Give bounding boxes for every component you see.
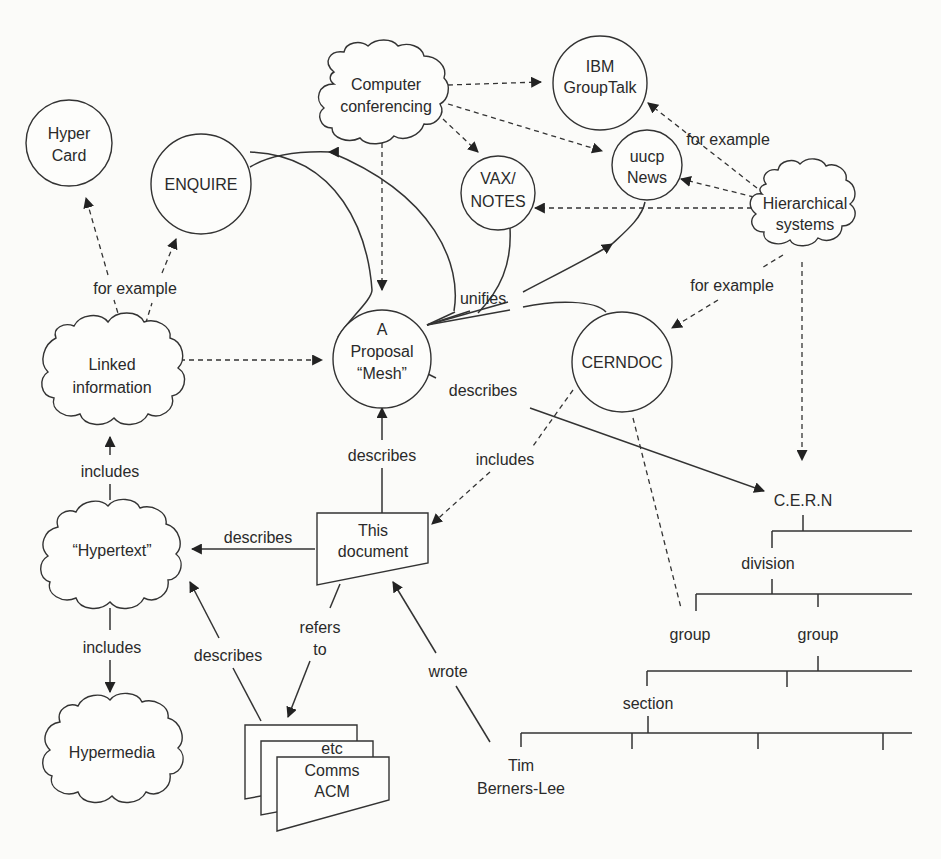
label-includes-hypertext-linked: includes <box>81 463 140 480</box>
org-root-cern: C.E.R.N <box>774 492 833 509</box>
edge-cerndoc-to-doc-a <box>533 390 573 446</box>
svg-text:Computer: Computer <box>351 76 422 93</box>
svg-text:CERNDOC: CERNDOC <box>582 354 663 371</box>
edge-mesh-to-cern-b <box>530 408 764 491</box>
label-for-example-right-top: for example <box>686 131 770 148</box>
node-hypertext: “Hypertext” <box>41 499 181 608</box>
node-this-document: This document <box>317 513 428 585</box>
svg-text:systems: systems <box>776 216 835 233</box>
svg-text:“Hypertext”: “Hypertext” <box>72 542 151 559</box>
node-hierarchical-systems: Hierarchical systems <box>750 159 855 246</box>
edge-unifies-enquire-main <box>329 152 455 311</box>
org-level-section: section <box>623 695 674 712</box>
label-includes-hypertext-hypermedia: includes <box>83 639 142 656</box>
label-wrote: wrote <box>427 663 467 680</box>
edge-conf-to-vax <box>443 119 478 152</box>
edge-linked-to-enquire-b <box>162 239 176 273</box>
svg-text:information: information <box>72 379 151 396</box>
node-ibm-grouptalk: IBM GroupTalk <box>553 36 647 130</box>
edge-unifies-cerndoc <box>523 302 606 312</box>
svg-text:IBM: IBM <box>586 58 614 75</box>
svg-text:document: document <box>338 543 409 560</box>
label-includes-cerndoc-doc: includes <box>476 451 535 468</box>
svg-text:This: This <box>358 522 388 539</box>
label-describes-doc-hypertext: describes <box>224 529 292 546</box>
edge-mesh-to-cern-a <box>428 374 436 378</box>
svg-text:Proposal: Proposal <box>350 343 413 360</box>
edge-unifies-uucp-a <box>523 244 612 292</box>
edge-unifies-enquire <box>250 152 372 337</box>
edge-doc-to-acm-a <box>330 584 340 608</box>
svg-text:uucp: uucp <box>630 148 665 165</box>
edge-linked-to-hypercard-b <box>86 198 108 275</box>
edge-tbl-to-doc-a <box>456 686 490 742</box>
svg-text:ENQUIRE: ENQUIRE <box>165 176 238 193</box>
node-hypermedia: Hypermedia <box>43 693 183 802</box>
label-to: to <box>313 641 326 658</box>
svg-text:GroupTalk: GroupTalk <box>564 79 638 96</box>
node-proposal-mesh: A Proposal “Mesh” <box>333 310 431 408</box>
node-vax-notes: VAX/ NOTES <box>461 156 535 230</box>
org-level-group-1: group <box>670 626 711 643</box>
edge-acm-to-hypertext-a <box>233 668 261 721</box>
label-for-example-left: for example <box>93 280 177 297</box>
node-cerndoc: CERNDOC <box>572 312 672 412</box>
label-refers: refers <box>300 619 341 636</box>
label-describes-mesh-cern: describes <box>449 382 517 399</box>
edge-cerndoc-to-group <box>633 418 681 608</box>
svg-text:Card: Card <box>52 147 87 164</box>
svg-text:Tim: Tim <box>508 757 534 774</box>
edge-hier-to-cerndoc-b <box>672 300 718 328</box>
svg-text:News: News <box>627 169 667 186</box>
org-level-group-2: group <box>798 626 839 643</box>
svg-text:Hyper: Hyper <box>48 125 91 142</box>
edge-hier-to-cerndoc-a <box>760 255 783 269</box>
edge-hier-to-uucp <box>681 179 754 197</box>
org-tree: C.E.R.N division group group section <box>521 492 912 750</box>
edge-doc-to-acm-b <box>288 661 310 717</box>
org-level-division: division <box>741 555 794 572</box>
edge-acm-to-hypertext-b <box>190 582 219 638</box>
label-describes-acm-hypertext: describes <box>194 647 262 664</box>
label-describes-doc-mesh: describes <box>348 447 416 464</box>
edge-tbl-to-doc-b <box>393 582 436 653</box>
node-tim-berners-lee: Tim Berners-Lee <box>477 757 565 797</box>
svg-text:etc: etc <box>321 740 342 757</box>
label-for-example-right-bottom: for example <box>690 277 774 294</box>
node-enquire: ENQUIRE <box>151 134 251 234</box>
svg-text:“Mesh”: “Mesh” <box>357 365 407 382</box>
svg-text:A: A <box>377 321 388 338</box>
svg-text:Linked: Linked <box>88 356 135 373</box>
svg-text:VAX/: VAX/ <box>480 170 516 187</box>
edge-conf-to-ibm <box>448 82 541 85</box>
node-hypercard: Hyper Card <box>26 100 112 186</box>
node-computer-conferencing: Computer conferencing <box>319 40 449 144</box>
svg-text:NOTES: NOTES <box>470 193 525 210</box>
node-comms-acm: etc Comms ACM <box>245 725 389 831</box>
node-uucp-news: uucp News <box>612 130 682 200</box>
svg-text:Comms: Comms <box>304 762 359 779</box>
svg-text:Hierarchical: Hierarchical <box>763 195 847 212</box>
edge-cerndoc-to-doc-b <box>432 472 490 524</box>
svg-text:ACM: ACM <box>314 783 350 800</box>
svg-text:Berners-Lee: Berners-Lee <box>477 780 565 797</box>
label-unifies: unifies <box>460 290 506 307</box>
concept-map-diagram: C.E.R.N division group group section Hyp… <box>0 0 941 859</box>
svg-text:Hypermedia: Hypermedia <box>69 744 155 761</box>
node-linked-information: Linked information <box>42 313 185 424</box>
svg-text:conferencing: conferencing <box>340 98 432 115</box>
